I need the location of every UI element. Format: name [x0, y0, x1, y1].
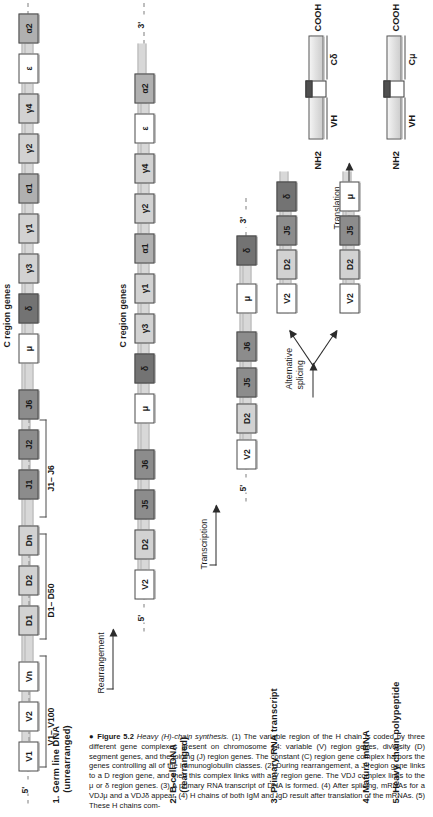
gene-segment-4: γ4	[134, 153, 154, 183]
three-prime-label-3: 3'	[237, 216, 247, 223]
gene-segment-J1: J1	[18, 469, 38, 499]
three-prime-label-2: 3'	[135, 21, 145, 28]
gene-spacer	[24, 243, 33, 253]
gene-segment-2: α2	[134, 73, 154, 103]
gene-spacer	[345, 245, 354, 249]
gene-segment-D2: D2	[134, 529, 154, 559]
gene-segment-J6: J6	[236, 331, 256, 361]
gene-spacer	[140, 423, 149, 449]
gene-segment-: μ	[236, 283, 256, 313]
polypeptide-mu-hinge-dark	[383, 80, 390, 97]
gene-segment-: δ	[134, 353, 154, 383]
gene-segment-J5: J5	[236, 367, 256, 397]
gene-segment-1: γ1	[134, 273, 154, 303]
gene-segment-1: γ1	[18, 213, 38, 243]
gene-segment-: μ	[18, 333, 38, 363]
polypeptide-delta-nterm: NH2	[312, 151, 322, 169]
three-prime-dash-2	[143, 31, 144, 43]
gene-segment-2: γ2	[18, 133, 38, 163]
gene-segment-: μ	[339, 181, 359, 211]
bracket-d-label: D1– D50	[45, 583, 55, 617]
five-prime-label-3: 5'	[237, 484, 247, 491]
gene-spacer	[140, 303, 149, 313]
primary-rna-strip: V2D2J5J6μδ	[229, 235, 263, 469]
gene-segment-D1: D1	[18, 605, 38, 635]
gene-spacer	[25, 731, 32, 741]
three-prime-dash-2b	[143, 2, 144, 14]
five-prime-dash-1	[27, 793, 28, 803]
gene-spacer	[242, 397, 251, 403]
caption-figure-title: Heavy (H)-chain synthesis.	[137, 732, 229, 741]
row-germline: 1. Germ line DNA (unrearranged) 5' 3' V1…	[0, 0, 92, 817]
five-prime-label-2: 5'	[135, 614, 145, 621]
gene-segment-4: γ4	[18, 93, 38, 123]
bcell-strip: V2D2J5J6μδγ3γ1α1γ2γ4εα2	[127, 73, 161, 599]
polypeptide-delta-hinge-dark	[305, 80, 312, 97]
c-region-caption-1: C region genes	[1, 283, 11, 347]
gene-spacer	[24, 323, 33, 333]
gene-segment-V2: V2	[134, 569, 154, 599]
figure-stage: 1. Germ line DNA (unrearranged) 5' 3' V1…	[0, 0, 433, 817]
gene-segment-V2: V2	[276, 283, 296, 313]
gene-segment-J6: J6	[18, 389, 38, 419]
gene-segment-: δ	[236, 235, 256, 265]
gene-spacer	[24, 123, 33, 133]
mature-mrna-delta-strip: V2D2J5δ	[269, 181, 303, 313]
gene-segment-: μ	[134, 393, 154, 423]
gene-segment-D2: D2	[18, 565, 38, 595]
gene-spacer	[24, 635, 33, 661]
caption-body: (1) The variable region of the H chain i…	[89, 732, 425, 810]
gene-spacer	[140, 103, 149, 113]
gene-segment-2: α2	[18, 13, 38, 43]
row-bcell: 2. B-cell DNA (rearranged) 5' 3' V2D2J5J…	[125, 0, 195, 817]
figure-caption: ● Figure 5.2 Heavy (H)-chain synthesis. …	[89, 732, 425, 811]
gene-spacer	[24, 83, 33, 93]
gene-spacer	[140, 263, 149, 273]
bracket-v-label: V1– V100	[45, 707, 55, 745]
gene-spacer	[25, 419, 32, 429]
gene-spacer	[25, 691, 32, 701]
gene-spacer	[24, 203, 33, 213]
gene-spacer	[140, 143, 149, 153]
gene-segment-2: γ2	[134, 193, 154, 223]
arrow-rearrangement-label: Rearrangement	[95, 632, 106, 693]
gene-spacer	[140, 383, 149, 393]
gene-segment-Vn: Vn	[18, 661, 38, 691]
row-primary-rna: 3. Primary RNA transcript 5' 3' V2D2J5J6…	[228, 0, 288, 817]
polypeptide-delta-cterm: COOH	[312, 3, 322, 31]
gene-segment-: ε	[18, 53, 38, 83]
gene-spacer	[242, 313, 251, 331]
gene-spacer	[24, 283, 33, 293]
gene-segment-J6: J6	[134, 449, 154, 479]
gene-spacer	[282, 245, 291, 249]
gene-segment-J2: J2	[18, 429, 38, 459]
caption-figure-number: Figure 5.2	[97, 732, 134, 741]
gene-spacer	[345, 211, 354, 215]
caption-bullet: ●	[89, 732, 94, 741]
gene-segment-: δ	[18, 293, 38, 323]
gene-spacer	[25, 555, 32, 565]
gene-spacer	[140, 559, 149, 569]
gene-spacer	[282, 279, 291, 283]
five-prime-dash-3	[245, 492, 246, 501]
gene-segment-1: α1	[134, 233, 154, 263]
gene-segment-: δ	[276, 181, 296, 211]
gene-spacer	[242, 433, 251, 439]
gene-segment-Dn: Dn	[18, 525, 38, 555]
polypeptide-delta-cd-label: Cδ	[328, 53, 338, 65]
gene-segment-3: γ3	[134, 313, 154, 343]
gene-segment-1: α1	[18, 173, 38, 203]
gene-spacer	[282, 211, 291, 215]
three-prime-dash-3b	[245, 197, 246, 209]
c-region-caption-2: C region genes	[117, 283, 127, 347]
gene-segment-D2: D2	[236, 403, 256, 433]
arrow-rearrangement	[112, 629, 113, 689]
gene-spacer	[242, 361, 251, 367]
bracket-j-label: J1– J6	[45, 465, 55, 491]
gene-spacer	[25, 595, 32, 605]
gene-segment-J5: J5	[134, 489, 154, 519]
five-prime-dash-2	[143, 622, 144, 631]
gene-segment-J5: J5	[339, 215, 359, 245]
gene-segment-V2: V2	[18, 701, 38, 731]
gene-spacer	[24, 363, 33, 389]
